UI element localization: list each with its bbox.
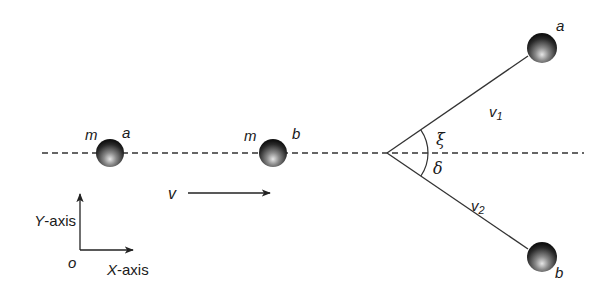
ball-icon <box>527 33 557 63</box>
ball-icon <box>96 139 124 167</box>
initial-velocity: v <box>168 185 270 202</box>
ball-b-after: b v2 <box>471 197 563 281</box>
ball-a-mass-label: m <box>85 126 98 143</box>
coordinate-axes: Y-axis o X-axis <box>34 194 148 278</box>
angle-delta-label: δ <box>433 159 443 178</box>
origin-label: o <box>68 254 76 271</box>
ball-a-after: a v1 <box>489 17 564 122</box>
ball-a-after-name-label: a <box>556 17 564 34</box>
angle-arc-delta <box>421 153 428 176</box>
trajectory-b <box>387 153 528 249</box>
angle-arc-xi <box>421 130 428 153</box>
ball-icon <box>259 139 287 167</box>
y-axis-label: Y-axis <box>34 212 76 229</box>
collision-diagram: m a m b v ξ δ a v1 b v2 Y-axis o <box>0 0 606 298</box>
ball-b-mass-label: m <box>244 127 257 144</box>
angle-xi-label: ξ <box>436 130 446 149</box>
ball-icon <box>527 242 557 272</box>
ball-b-after-name-label: b <box>555 264 563 281</box>
ball-a-before: m a <box>85 124 130 167</box>
ball-a-name-label: a <box>122 124 130 141</box>
velocity-v2-label: v2 <box>471 197 485 216</box>
ball-b-name-label: b <box>292 125 300 142</box>
ball-b-before: m b <box>244 125 300 167</box>
velocity-label: v <box>168 185 177 202</box>
trajectory-a <box>387 56 528 153</box>
velocity-v1-label: v1 <box>489 103 503 122</box>
x-axis-label: X-axis <box>106 261 149 278</box>
